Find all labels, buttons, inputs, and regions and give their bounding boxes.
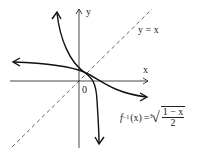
identity-line-label: y = x bbox=[138, 25, 159, 35]
radical-index: 3 bbox=[149, 109, 152, 124]
function-curve bbox=[57, 13, 99, 143]
function-argument: (x) bbox=[130, 112, 142, 123]
cube-root-icon: 3√ bbox=[151, 110, 159, 125]
inverse-function-curve bbox=[13, 62, 146, 97]
fraction: 1 − x 2 bbox=[161, 106, 186, 128]
curve-top-arrow-icon bbox=[52, 12, 61, 19]
x-axis-label: x bbox=[143, 65, 148, 75]
origin-label: 0 bbox=[82, 85, 87, 95]
graph-canvas bbox=[0, 0, 213, 153]
inverse-superscript: −1 bbox=[123, 114, 129, 120]
y-axis-label: y bbox=[86, 7, 91, 17]
denominator: 2 bbox=[171, 118, 176, 128]
inverse-function-equation: f−1 (x) = 3√ 1 − x 2 bbox=[120, 106, 185, 128]
